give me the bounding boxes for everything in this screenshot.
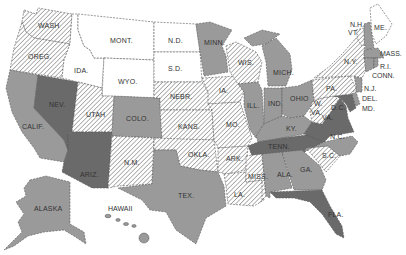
label-ill: ILL. xyxy=(247,102,259,109)
label-sd: S.D. xyxy=(168,65,182,72)
label-ark: ARK. xyxy=(226,155,243,162)
label-colo: COLO. xyxy=(126,115,149,122)
label-oreg: OREG. xyxy=(28,53,52,60)
label-nebr: NEBR. xyxy=(170,93,192,100)
state-hawaii xyxy=(105,214,149,243)
label-nh: N.H. xyxy=(350,21,364,28)
state-michigan xyxy=(262,38,292,86)
label-sc: S.C. xyxy=(322,152,336,159)
label-ia: IA. xyxy=(219,87,228,94)
label-mass: MASS. xyxy=(380,50,402,57)
label-okla: OKLA. xyxy=(188,151,210,158)
label-conn: CONN. xyxy=(372,72,395,79)
us-choropleth-map: WASH OREG. CALIF. NEV. IDA. MONT. WYO. U… xyxy=(0,0,406,255)
label-ind: IND. xyxy=(268,100,283,107)
label-fla: FLA. xyxy=(328,211,344,218)
label-dc: D.C. xyxy=(331,104,346,111)
label-ri: R.I. xyxy=(380,63,391,70)
state-rhode-island xyxy=(374,58,378,68)
label-mont: MONT. xyxy=(110,37,133,44)
label-tex: TEX. xyxy=(178,192,194,199)
label-tenn: TENN. xyxy=(268,143,290,150)
label-nd: N.D. xyxy=(168,37,183,44)
label-ala: ALA. xyxy=(277,171,293,178)
label-pa: PA. xyxy=(326,85,337,92)
label-ny: N.Y. xyxy=(344,58,358,65)
label-nev: NEV. xyxy=(49,101,66,108)
label-nc: N.C. xyxy=(330,133,345,140)
label-nm: N.M. xyxy=(124,159,140,166)
label-mich: MICH. xyxy=(273,69,294,76)
label-minn: MINN. xyxy=(204,39,225,46)
label-alaska: ALASKA xyxy=(34,205,63,212)
label-la: LA. xyxy=(234,191,245,198)
label-mo: MO. xyxy=(226,121,240,128)
label-md: MD. xyxy=(362,105,375,112)
label-kans: KANS. xyxy=(178,123,200,130)
label-ariz: ARIZ. xyxy=(80,171,99,178)
label-calif: CALIF. xyxy=(22,123,44,130)
state-alaska xyxy=(4,176,86,250)
label-ky: KY. xyxy=(286,125,297,132)
state-new-jersey xyxy=(354,76,362,92)
label-miss: MISS. xyxy=(248,173,268,180)
label-me: ME. xyxy=(374,24,387,31)
label-utah: UTAH xyxy=(86,111,105,118)
label-vt: VT. xyxy=(348,29,358,36)
label-wyo: WYO. xyxy=(118,78,137,85)
label-va: VA. xyxy=(322,114,333,121)
state-arizona xyxy=(62,132,112,188)
label-nj: N.J. xyxy=(364,85,377,92)
label-wash: WASH xyxy=(38,22,60,29)
label-wva-va: VA. xyxy=(311,109,322,116)
state-new-york xyxy=(314,38,366,78)
label-del: DEL. xyxy=(362,95,378,102)
label-ga: GA. xyxy=(300,166,313,173)
label-wis: WIS. xyxy=(238,59,254,66)
label-ohio: OHIO xyxy=(290,95,309,102)
label-wva-w: W. xyxy=(314,100,323,107)
label-hawaii: HAWAII xyxy=(108,205,132,212)
label-ida: IDA. xyxy=(74,67,88,74)
